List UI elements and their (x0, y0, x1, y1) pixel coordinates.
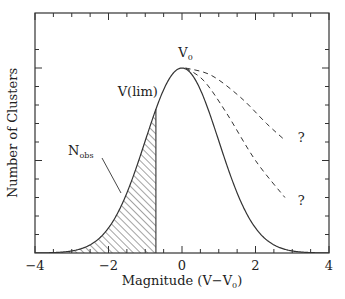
dashed-curve-upper (186, 68, 285, 140)
annotation-label: V(lim) (117, 84, 158, 99)
curves (35, 68, 329, 253)
x-tick-label: −4 (25, 258, 44, 273)
x-tick-label: 0 (178, 258, 186, 273)
annotation-label: ? (298, 193, 305, 208)
x-tick-label: −2 (99, 258, 118, 273)
gaussian-curve (35, 68, 329, 253)
x-axis-label: Magnitude (V−V0) (122, 273, 243, 290)
x-tick-label: 4 (325, 258, 333, 273)
x-tick-labels: −4−2024 (25, 258, 333, 273)
x-tick-label: 2 (251, 258, 259, 273)
nobs-shaded-region (35, 109, 156, 253)
chart-canvas: −4−2024 Magnitude (V−V0) Number of Clust… (0, 0, 345, 299)
annotation-label: ? (298, 130, 305, 145)
annotation-label: Nobs (68, 143, 93, 160)
y-axis-label: Number of Clusters (5, 68, 20, 198)
nobs-pointer-line (102, 158, 121, 193)
dashed-curve-lower (186, 68, 285, 198)
annotation-label: V0 (177, 45, 192, 62)
